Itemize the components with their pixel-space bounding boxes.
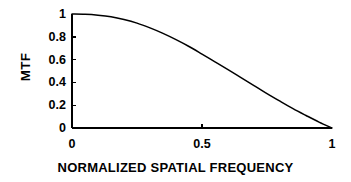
x-axis-tick-labels: 00.51 (0, 0, 351, 182)
x-tick-label: 0.5 (193, 138, 210, 151)
x-axis-title: NORMALIZED SPATIAL FREQUENCY (0, 160, 351, 175)
y-axis-title: MTF (8, 50, 42, 84)
mtf-chart-figure: 10.80.60.40.20 00.51 MTF NORMALIZED SPAT… (0, 0, 351, 182)
x-tick-label: 1 (329, 138, 336, 151)
x-tick-label: 0 (69, 138, 76, 151)
